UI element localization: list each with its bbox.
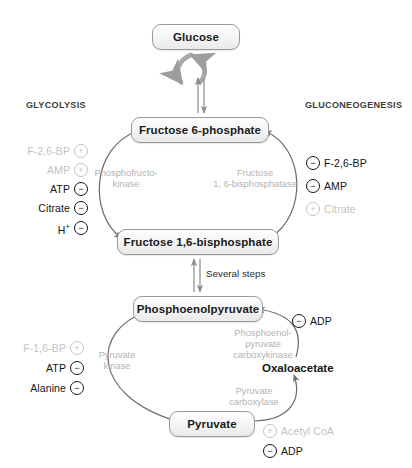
regulator-pfk-amp-sign: + [74, 163, 88, 177]
enzyme-pyruvate-carboxylase-line1: Pyruvate [212, 386, 296, 397]
node-pyruvate[interactable]: Pyruvate [169, 411, 255, 437]
regulator-pfk-atp: ATP − [0, 182, 88, 196]
regulator-pc-acetyl-coa-sign: + [263, 424, 277, 438]
several-steps-arrows [194, 259, 200, 292]
node-glucose[interactable]: Glucose [152, 24, 240, 50]
regulator-pk-alanine-name: Alanine [30, 382, 66, 395]
regulator-pfk-f26bp-name: F-2,6-BP [27, 145, 70, 158]
enzyme-pyruvate-kinase: Pyruvate kinase [85, 350, 149, 372]
regulator-pfk-citrate: Citrate − [0, 201, 88, 215]
enzyme-pyruvate-kinase-line1: Pyruvate [85, 350, 149, 361]
regulator-pepck-adp-sign: − [292, 314, 306, 328]
regulator-fbpase-citrate-name: Citrate [324, 203, 356, 216]
regulator-pfk-proton-sign: − [74, 221, 88, 235]
regulator-fbpase-amp-name: AMP [324, 180, 347, 193]
label-oxaloacetate: Oxaloacetate [262, 362, 334, 374]
regulator-pepck-adp-name: ADP [310, 315, 332, 328]
enzyme-pyruvate-carboxylase: Pyruvate carboxylase [212, 386, 296, 408]
regulator-pk-atp: ATP − [0, 361, 84, 375]
enzyme-phosphofructokinase-line2: kinase [89, 179, 163, 190]
regulator-pfk-proton: H+ − [0, 220, 88, 237]
enzyme-pepck-line3: carboxykinase [216, 350, 310, 361]
regulator-pfk-amp: AMP + [0, 163, 88, 177]
regulator-fbpase-citrate-sign: + [306, 202, 320, 216]
regulator-pk-atp-name: ATP [46, 362, 66, 375]
enzyme-phosphofructokinase-line1: Phosphofructo- [89, 168, 163, 179]
regulator-fbpase-amp: − AMP [306, 179, 347, 193]
regulator-pfk-f26bp: F-2,6-BP + [0, 144, 88, 158]
regulator-pk-f16bp-sign: + [70, 341, 84, 355]
regulator-pc-acetyl-coa: + Acetyl CoA [263, 424, 334, 438]
regulator-fbpase-f26bp: − F-2,6-BP [306, 156, 367, 170]
regulator-fbpase-f26bp-sign: − [306, 156, 320, 170]
regulator-pfk-atp-name: ATP [50, 183, 70, 196]
regulator-pk-atp-sign: − [70, 361, 84, 375]
regulator-pk-f16bp: F-1,6-BP + [0, 341, 84, 355]
regulator-pfk-citrate-sign: − [74, 201, 88, 215]
node-fructose-6-phosphate[interactable]: Fructose 6-phosphate [131, 117, 269, 143]
regulator-pk-f16bp-name: F-1,6-BP [23, 342, 66, 355]
regulator-pk-alanine: Alanine − [0, 381, 84, 395]
glycolysis-gluconeogenesis-diagram: GLYCOLYSIS GLUCONEOGENESIS Glucose Fruct… [0, 0, 412, 468]
regulator-pk-alanine-sign: − [70, 381, 84, 395]
regulator-fbpase-amp-sign: − [306, 179, 320, 193]
regulator-pc-adp-sign: − [263, 444, 277, 458]
regulator-pepck-adp: − ADP [292, 314, 332, 328]
enzyme-phosphofructokinase: Phosphofructo- kinase [89, 168, 163, 190]
node-fructose-1-6-bisphosphate[interactable]: Fructose 1,6-bisphosphate [117, 229, 279, 255]
pathway-title-gluconeogenesis: GLUCONEOGENESIS [305, 100, 402, 110]
enzyme-pepck-line2: pyruvate [216, 339, 310, 350]
regulator-pc-adp: − ADP [263, 444, 303, 458]
regulator-pc-acetyl-coa-name: Acetyl CoA [281, 425, 334, 438]
regulator-fbpase-f26bp-name: F-2,6-BP [324, 157, 367, 170]
enzyme-pyruvate-carboxylase-line2: carboxylase [212, 397, 296, 408]
enzyme-pyruvate-kinase-line2: kinase [85, 361, 149, 372]
enzyme-fbpase-line2: 1, 6-bisphosphatase [208, 179, 302, 190]
label-several-steps: Several steps [206, 268, 265, 279]
regulator-pfk-f26bp-sign: + [74, 144, 88, 158]
regulator-pfk-citrate-name: Citrate [38, 202, 70, 215]
enzyme-pepck: Phosphoenol- pyruvate carboxykinase [216, 328, 310, 361]
regulator-fbpase-citrate: + Citrate [306, 202, 356, 216]
enzyme-fbpase-line1: Fructose [208, 168, 302, 179]
regulator-pfk-atp-sign: − [74, 182, 88, 196]
enzyme-fructose-1-6-bisphosphatase: Fructose 1, 6-bisphosphatase [208, 168, 302, 190]
glucose-interconversion-loop [178, 55, 205, 82]
pathway-title-glycolysis: GLYCOLYSIS [26, 100, 86, 110]
regulator-pfk-amp-name: AMP [47, 164, 70, 177]
node-phosphoenolpyruvate[interactable]: Phosphoenolpyruvate [133, 296, 263, 322]
regulator-pfk-proton-name: H+ [58, 220, 70, 237]
enzyme-pepck-line1: Phosphoenol- [216, 328, 310, 339]
glucose-f6p-arrows [198, 78, 204, 113]
regulator-pc-adp-name: ADP [281, 445, 303, 458]
